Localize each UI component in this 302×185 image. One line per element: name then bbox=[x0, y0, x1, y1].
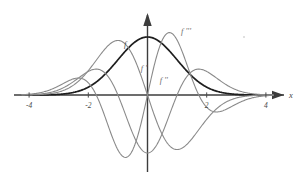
x-tick-label: -4 bbox=[26, 101, 32, 110]
curve-label-f2: f '' bbox=[160, 75, 168, 85]
x-axis-label: x bbox=[288, 90, 293, 100]
curve-label-f3: f ''' bbox=[181, 26, 191, 36]
plot-background bbox=[0, 0, 302, 185]
curve-label-f1: f ' bbox=[141, 63, 147, 73]
derivatives-plot: -4-224 ff 'f ''f ''' x bbox=[0, 0, 302, 185]
scan-artifact-speck bbox=[243, 36, 245, 38]
x-tick-label: 4 bbox=[264, 101, 268, 110]
figure-canvas: -4-224 ff 'f ''f ''' x bbox=[0, 0, 302, 185]
x-tick-label: -2 bbox=[85, 101, 91, 110]
x-tick-label: 2 bbox=[205, 101, 209, 110]
